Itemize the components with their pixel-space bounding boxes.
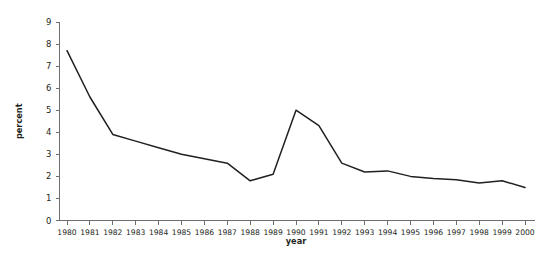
x-axis-title: year: [286, 236, 307, 246]
data-series-percent: [67, 51, 525, 188]
x-tick-label: 1985: [172, 228, 191, 237]
x-tick-label: 1996: [424, 228, 443, 237]
y-tick-label: 2: [46, 171, 51, 181]
x-tick-label: 1983: [126, 228, 145, 237]
x-tick-label: 1984: [149, 228, 168, 237]
x-tick-label: 1999: [492, 228, 511, 237]
y-axis: 0123456789: [46, 17, 59, 226]
series-polyline: [67, 51, 525, 188]
x-tick-label: 1991: [309, 228, 328, 237]
x-tick-label: 1995: [401, 228, 420, 237]
y-axis-title: percent: [14, 103, 24, 139]
x-tick-label: 1998: [470, 228, 489, 237]
x-tick-label: 1982: [103, 228, 122, 237]
x-tick-label: 1980: [57, 228, 76, 237]
x-tick-label: 1988: [241, 228, 260, 237]
y-tick-label: 5: [46, 105, 51, 115]
y-tick-label: 7: [46, 61, 51, 71]
x-tick-label: 1992: [332, 228, 351, 237]
y-tick-label: 4: [46, 127, 51, 137]
x-tick-label: 2000: [515, 228, 534, 237]
y-tick-label: 6: [46, 83, 51, 93]
x-tick-label: 1993: [355, 228, 374, 237]
y-tick-label: 3: [46, 149, 51, 159]
chart-canvas: 0123456789 19801981198219831984198519861…: [0, 0, 548, 255]
x-axis: 1980198119821983198419851986198719881989…: [57, 221, 535, 237]
x-tick-label: 1986: [195, 228, 214, 237]
x-tick-label: 1994: [378, 228, 397, 237]
y-tick-label: 8: [46, 39, 51, 49]
x-tick-label: 1997: [447, 228, 466, 237]
y-tick-label: 1: [46, 193, 51, 203]
x-tick-label: 1987: [218, 228, 237, 237]
y-tick-label: 0: [46, 216, 51, 226]
y-tick-label: 9: [46, 17, 51, 27]
line-chart: 0123456789 19801981198219831984198519861…: [0, 0, 548, 255]
x-tick-label: 1981: [80, 228, 99, 237]
x-tick-label: 1989: [263, 228, 282, 237]
